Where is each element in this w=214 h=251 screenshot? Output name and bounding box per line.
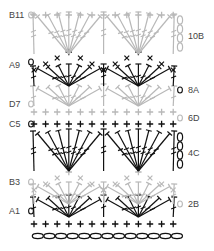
row-label-right: 10B: [188, 31, 204, 41]
row-label-left: B3: [9, 177, 20, 187]
row-label-left: B11: [9, 10, 24, 20]
row-label-right: 8A: [188, 85, 199, 95]
row-label-left: C5: [9, 119, 21, 129]
row-label-left: A1: [9, 206, 20, 216]
row-label-right: 2B: [188, 199, 199, 209]
row-label-right: 4C: [188, 148, 200, 158]
crochet-chart: [0, 0, 214, 251]
row-label-left: A9: [9, 60, 20, 70]
row-label-left: D7: [9, 99, 21, 109]
row-label-right: 6D: [188, 113, 200, 123]
